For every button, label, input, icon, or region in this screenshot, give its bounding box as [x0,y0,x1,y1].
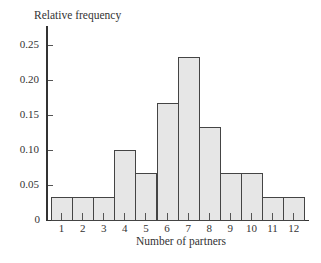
bar-4 [114,150,136,221]
bar-11 [262,197,284,221]
bar-5 [135,173,157,221]
y-tick-mark [47,150,53,151]
x-axis-title: Number of partners [136,235,226,247]
x-tick-mark [188,213,189,220]
x-tick-mark [230,213,231,220]
x-tick-label: 8 [198,222,220,234]
x-tick-mark [61,213,62,220]
x-tick-mark [145,213,146,220]
x-tick-label: 4 [114,222,136,234]
x-tick-mark [124,213,125,220]
x-tick-label: 12 [283,222,305,234]
y-tick-mark [47,185,53,186]
bar-2 [72,197,94,221]
bar-1 [51,197,73,221]
x-tick-label: 10 [240,222,262,234]
y-tick-label: 0.25 [3,38,39,50]
y-axis-title: Relative frequency [34,9,121,21]
x-tick-label: 6 [156,222,178,234]
y-tick-mark [47,115,53,116]
bar-9 [220,173,242,221]
y-tick-mark [47,80,53,81]
x-tick-mark [82,213,83,220]
bar-6 [157,103,179,221]
x-tick-label: 1 [51,222,73,234]
x-tick-mark [167,213,168,220]
x-tick-label: 7 [177,222,199,234]
y-tick-mark [47,45,53,46]
x-tick-label: 9 [219,222,241,234]
bar-10 [241,173,263,221]
x-tick-mark [293,213,294,220]
bar-7 [178,57,200,221]
x-tick-mark [103,213,104,220]
x-tick-label: 3 [93,222,115,234]
y-tick-label: 0.20 [3,73,39,85]
x-tick-mark [272,213,273,220]
x-tick-label: 11 [262,222,284,234]
y-tick-label: 0.15 [3,108,39,120]
x-tick-mark [251,213,252,220]
y-tick-label: 0.10 [3,143,39,155]
y-axis-line [46,26,48,221]
x-tick-label: 5 [135,222,157,234]
y-tick-label: 0 [4,213,40,225]
y-tick-label: 0.05 [3,178,39,190]
bar-12 [283,197,305,221]
x-tick-mark [209,213,210,220]
x-tick-label: 2 [72,222,94,234]
bar-8 [199,127,221,221]
